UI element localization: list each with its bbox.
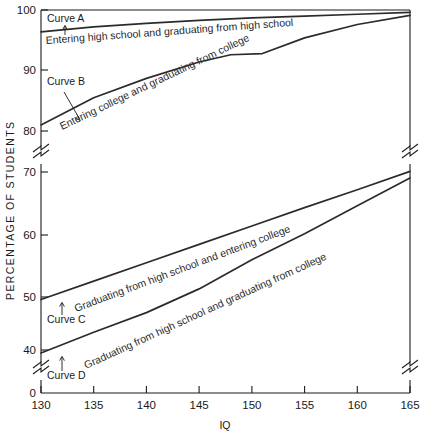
x-tick-label-165: 165 (400, 399, 419, 411)
y-tick-label-50: 50 (23, 291, 36, 303)
axis-break-right-upper (402, 144, 418, 158)
x-tick-label-155: 155 (295, 399, 314, 411)
series-label-curve-d: Graduating from high school and graduati… (82, 250, 328, 371)
y-tick-70: 70 (23, 166, 48, 178)
series-label-curve-b: Entering college and graduating from col… (58, 31, 251, 132)
x-tick-label-150: 150 (242, 399, 261, 411)
y-tick-50: 50 (23, 291, 48, 303)
curve-d-annotation: Curve D (47, 356, 86, 381)
y-tick-40: 40 (23, 344, 48, 356)
x-tick-165: 165 (400, 386, 419, 411)
x-tick-155: 155 (295, 386, 314, 411)
y-tick-60: 60 (23, 229, 48, 241)
curve-c-tag-label: Curve C (47, 313, 86, 325)
x-tick-150: 150 (242, 386, 261, 411)
x-axis-title: IQ (219, 419, 230, 431)
series-line-curve-c (41, 171, 410, 299)
x-tick-label-140: 140 (137, 399, 156, 411)
y-tick-label-100: 100 (17, 4, 36, 16)
y-tick-80: 80 (23, 125, 48, 137)
axis-break-left-upper (33, 144, 49, 158)
chart-container: PERCENTAGE OF STUDENTS (0, 0, 424, 440)
axis-break-right-lower (402, 360, 418, 374)
y-tick-label-70: 70 (23, 166, 36, 178)
y-tick-label-90: 90 (23, 64, 36, 76)
y-tick-label-80: 80 (23, 125, 36, 137)
series-line-curve-d (41, 178, 410, 353)
x-tick-160: 160 (348, 386, 367, 411)
y-tick-label-0: 0 (30, 387, 36, 399)
x-tick-145: 145 (190, 386, 209, 411)
x-tick-label-160: 160 (348, 399, 367, 411)
x-tick-label-135: 135 (84, 399, 103, 411)
x-tick-140: 140 (137, 386, 156, 411)
line-chart-svg: PERCENTAGE OF STUDENTS (0, 0, 424, 440)
y-tick-label-60: 60 (23, 229, 36, 241)
y-axis-title: PERCENTAGE OF STUDENTS (4, 121, 16, 300)
y-tick-0: 0 (30, 387, 36, 399)
series-label-curve-c: Graduating from high school and entering… (72, 222, 291, 314)
curve-b-tag-label: Curve B (47, 75, 85, 87)
curve-d-tag-label: Curve D (47, 369, 86, 381)
y-tick-90: 90 (23, 64, 48, 76)
y-tick-label-40: 40 (23, 344, 36, 356)
y-tick-100: 100 (17, 4, 48, 16)
x-tick-label-130: 130 (31, 399, 50, 411)
curve-a-tag-label: Curve A (47, 12, 84, 24)
x-tick-135: 135 (84, 386, 103, 411)
x-tick-label-145: 145 (190, 399, 209, 411)
